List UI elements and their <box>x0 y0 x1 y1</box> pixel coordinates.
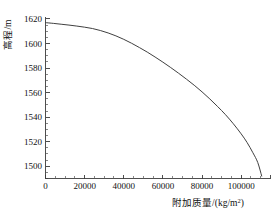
x-axis-group: 020000400006000080000100000 <box>43 175 270 192</box>
elevation-vs-added-mass-line-chart: 1500152015401560158016001620 02000040000… <box>0 0 280 216</box>
x-axis-tick-label: 100000 <box>228 181 256 191</box>
y-axis-tick-label: 1540 <box>24 112 43 122</box>
x-axis-tick-label: 40000 <box>113 181 136 191</box>
y-axis-tick-label: 1560 <box>24 88 43 98</box>
data-series-group <box>46 23 262 176</box>
y-axis-group: 1500152015401560158016001620 <box>24 14 50 178</box>
x-axis-tick-label: 80000 <box>191 181 214 191</box>
y-axis-tick-label: 1580 <box>24 63 43 73</box>
series-line-elevation <box>46 23 262 176</box>
x-axis-tick-labels: 020000400006000080000100000 <box>43 181 255 191</box>
x-axis-major-ticks <box>46 175 271 179</box>
x-axis-tick-label: 20000 <box>73 181 96 191</box>
chart-figure: 1500152015401560158016001620 02000040000… <box>0 0 280 216</box>
y-axis-title: 高程/m <box>2 19 13 50</box>
x-axis-tick-label: 0 <box>43 181 48 191</box>
y-axis-tick-label: 1520 <box>24 137 43 147</box>
x-axis-tick-label: 60000 <box>152 181 175 191</box>
y-axis-tick-label: 1620 <box>24 14 43 24</box>
y-axis-tick-label: 1600 <box>24 39 43 49</box>
y-axis-major-ticks <box>46 19 50 166</box>
y-axis-tick-labels: 1500152015401560158016001620 <box>24 14 43 171</box>
x-axis-title: 附加质量/(kg/m2) <box>172 196 244 209</box>
y-axis-tick-label: 1500 <box>24 161 43 171</box>
